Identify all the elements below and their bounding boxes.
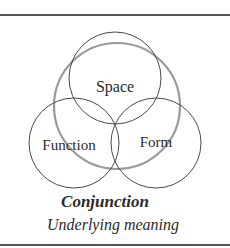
space-label: Space <box>96 78 134 96</box>
bottom-rule <box>0 244 230 246</box>
function-label: Function <box>42 137 96 153</box>
diagram-title: Conjunction <box>61 192 149 211</box>
venn-diagram: Space Function Form Conjunction Underlyi… <box>0 0 230 248</box>
diagram-subtitle: Underlying meaning <box>47 216 179 234</box>
form-label: Form <box>140 134 173 150</box>
